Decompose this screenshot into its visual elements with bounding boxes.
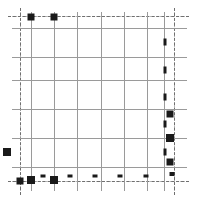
data-point-marker [3, 148, 11, 156]
minor-gridline-vertical [174, 8, 175, 195]
major-gridline-horizontal [12, 28, 187, 29]
chart-figure [0, 0, 197, 203]
major-gridline-vertical [147, 12, 148, 191]
major-gridline-horizontal [12, 138, 187, 139]
data-point-marker [51, 14, 58, 21]
axis-line-vertical [20, 8, 21, 195]
data-point-marker [167, 159, 174, 166]
major-gridline-vertical [101, 12, 102, 191]
data-point-marker [164, 149, 167, 156]
major-gridline-vertical [77, 12, 78, 191]
data-point-marker [27, 176, 35, 184]
axis-line-horizontal [8, 181, 189, 182]
axis-line-horizontal [8, 16, 189, 17]
plot-area [0, 0, 197, 203]
minor-gridline-vertical [20, 8, 21, 195]
minor-gridline-horizontal [8, 181, 189, 182]
data-point-marker [93, 175, 98, 178]
data-point-marker [164, 121, 167, 128]
major-gridline-horizontal [12, 80, 187, 81]
data-point-marker [41, 175, 46, 178]
major-gridline-horizontal [12, 57, 187, 58]
major-gridline-vertical [31, 12, 32, 191]
major-gridline-vertical [124, 12, 125, 191]
axis-line-vertical [174, 8, 175, 195]
data-point-marker [167, 111, 174, 118]
data-point-marker [164, 94, 167, 101]
data-point-marker [164, 67, 167, 74]
data-point-marker [17, 178, 24, 185]
data-point-marker [144, 175, 149, 178]
data-point-marker [118, 175, 123, 178]
data-point-marker [170, 172, 175, 176]
data-point-marker [28, 14, 35, 21]
major-gridline-horizontal [12, 109, 187, 110]
data-point-marker [164, 39, 167, 46]
data-point-marker [50, 176, 58, 184]
major-gridline-horizontal [12, 167, 187, 168]
major-gridline-vertical [54, 12, 55, 191]
minor-gridline-horizontal [8, 16, 189, 17]
data-point-marker [166, 134, 174, 142]
data-point-marker [68, 175, 73, 178]
